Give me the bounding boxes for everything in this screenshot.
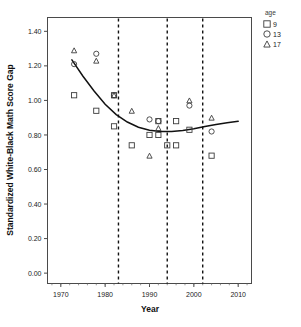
data-point-age-13 <box>209 129 214 134</box>
x-axis-tick-label: 1990 <box>142 291 158 298</box>
y-axis-title: Standardized White-Black Math Score Gap <box>5 64 15 235</box>
data-point-age-9 <box>94 108 99 113</box>
data-point-age-13 <box>94 51 99 56</box>
x-axis-tick-label: 1980 <box>97 291 113 298</box>
fitted-trend-curve <box>72 60 238 132</box>
y-axis-tick-label: 1.20 <box>28 62 42 69</box>
y-axis-tick-group <box>44 31 48 273</box>
data-point-age-17 <box>94 58 99 63</box>
data-point-age-9 <box>111 124 116 129</box>
legend-marker-17 <box>264 41 270 47</box>
legend: age 91317 <box>264 9 281 48</box>
x-axis-tick-label: 2010 <box>230 291 246 298</box>
y-axis-tick-label: 0.40 <box>28 201 42 208</box>
legend-entries: 91317 <box>264 21 281 48</box>
y-axis-tick-label: 0.60 <box>28 166 42 173</box>
y-axis-tick-label: 1.40 <box>28 28 42 35</box>
legend-label-9: 9 <box>273 21 277 28</box>
data-point-age-9 <box>147 132 152 137</box>
y-axis-tick-label: 0.00 <box>28 270 42 277</box>
white-black-math-score-gap-scatter-chart: 0.000.200.400.600.801.001.201.40 1970198… <box>0 0 301 327</box>
y-axis-tick-label: 0.80 <box>28 132 42 139</box>
data-point-age-9 <box>72 93 77 98</box>
data-point-age-9 <box>156 132 161 137</box>
data-point-age-9 <box>209 153 214 158</box>
chart-container: 0.000.200.400.600.801.001.201.40 1970198… <box>0 0 301 327</box>
x-axis-tick-label: 1970 <box>53 291 69 298</box>
data-point-age-17 <box>209 115 214 120</box>
x-axis-tick-label: 2000 <box>186 291 202 298</box>
data-point-age-9 <box>174 143 179 148</box>
data-point-age-17 <box>187 98 192 103</box>
data-point-markers <box>72 48 215 158</box>
y-axis-tick-labels: 0.000.200.400.600.801.001.201.40 <box>28 28 42 277</box>
data-point-age-9 <box>129 143 134 148</box>
data-point-age-9 <box>174 119 179 124</box>
y-axis-tick-label: 1.00 <box>28 97 42 104</box>
data-point-age-13 <box>147 117 152 122</box>
data-point-age-17 <box>147 153 152 158</box>
event-dashed-lines <box>118 19 202 284</box>
data-point-age-17 <box>156 126 161 131</box>
legend-marker-9 <box>264 21 270 27</box>
data-point-age-13 <box>156 119 161 124</box>
legend-marker-13 <box>264 31 270 37</box>
data-point-age-13 <box>187 103 192 108</box>
x-axis-title: Year <box>141 304 160 314</box>
plot-frame <box>48 18 252 284</box>
legend-label-13: 13 <box>273 31 281 38</box>
legend-label-17: 17 <box>273 41 281 48</box>
data-point-age-17 <box>72 48 77 53</box>
x-axis-tick-labels: 19701980199020002010 <box>53 291 246 298</box>
data-point-age-17 <box>129 108 134 113</box>
legend-title: age <box>265 9 276 17</box>
y-axis-tick-label: 0.20 <box>28 235 42 242</box>
